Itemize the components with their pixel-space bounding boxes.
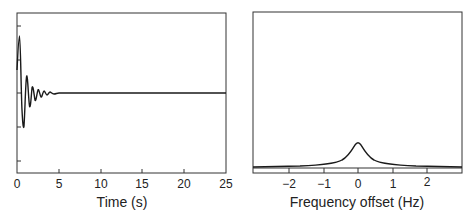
lorentzian-peak-line <box>253 143 462 167</box>
left-x-tick-25: 25 <box>219 177 233 191</box>
left-x-tick-0: 0 <box>14 177 21 191</box>
left-x-tick-20: 20 <box>177 177 191 191</box>
right-x-ticks <box>289 168 427 173</box>
right-x-tick-neg2: −2 <box>282 177 296 191</box>
right-plot-frame <box>253 12 462 173</box>
left-x-tick-10: 10 <box>94 177 108 191</box>
left-x-tick-15: 15 <box>135 177 149 191</box>
right-x-tick-2: 2 <box>424 175 431 189</box>
right-x-tick-neg1: −1 <box>317 177 331 191</box>
left-x-tick-5: 5 <box>56 177 63 191</box>
left-x-ticks <box>59 169 184 173</box>
time-domain-plot: 0 5 10 15 20 25 Time (s) <box>14 13 233 210</box>
damped-oscillation-line <box>17 36 226 127</box>
right-x-tick-0: 0 <box>355 177 362 191</box>
frequency-domain-plot: −2 −1 0 1 2 Frequency offset (Hz) <box>253 12 462 210</box>
figure: 0 5 10 15 20 25 Time (s) −2 −1 0 1 2 Fre… <box>0 0 475 221</box>
left-x-axis-label: Time (s) <box>97 194 148 210</box>
right-x-axis-label: Frequency offset (Hz) <box>290 194 424 210</box>
right-x-tick-1: 1 <box>390 177 397 191</box>
